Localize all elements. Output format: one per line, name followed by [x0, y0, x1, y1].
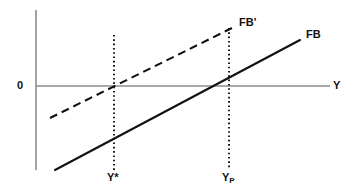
diagram-canvas	[0, 0, 353, 194]
y-potential-axis-label: YP	[222, 172, 235, 183]
origin-label: 0	[17, 80, 23, 91]
y-star-axis-label: Y*	[107, 172, 119, 183]
fb-prime-curve-label: FB'	[239, 17, 256, 28]
fb-curve-label: FB	[306, 29, 321, 40]
y-star-label-sub: *	[114, 171, 118, 183]
economics-diagram: 0 Y FB FB' Y* YP	[0, 0, 353, 194]
fb-curve	[55, 40, 300, 170]
x-axis-label: Y	[333, 80, 340, 91]
fb-prime-curve	[50, 28, 232, 118]
y-potential-label-sub: P	[229, 176, 234, 185]
